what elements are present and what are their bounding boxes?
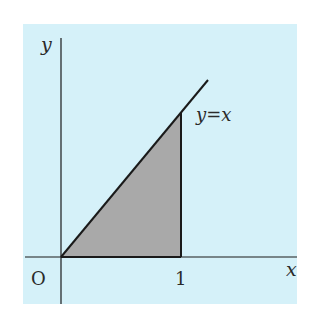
tick-label-1: 1 [175, 268, 186, 289]
curve-label: y=x [195, 104, 231, 125]
origin-label: O [31, 268, 46, 289]
y-axis-label: y [40, 33, 52, 55]
graph: y x O 1 y=x [0, 0, 322, 312]
x-axis-label: x [286, 258, 297, 280]
